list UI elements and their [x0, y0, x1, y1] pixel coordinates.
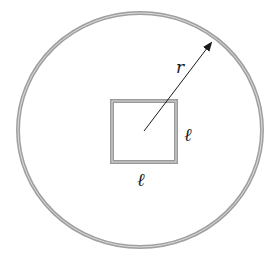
side-length-label-right: ℓ [184, 124, 192, 145]
radius-label: r [176, 57, 185, 77]
square-loop [112, 101, 176, 162]
side-length-label-bottom: ℓ [137, 169, 145, 190]
diagram-canvas: r ℓ ℓ [0, 0, 274, 258]
circular-loop [18, 13, 262, 247]
